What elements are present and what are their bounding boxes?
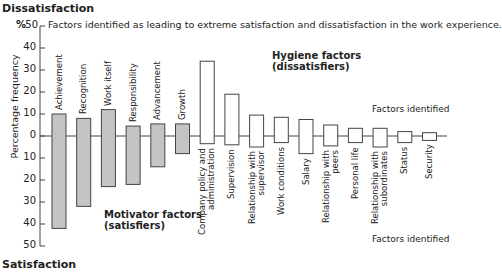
y-tick-label: 20 [16, 173, 36, 184]
bar [126, 126, 140, 184]
bar [225, 94, 239, 145]
bar-label: Status [400, 147, 409, 174]
bar [348, 128, 362, 142]
y-tick-label: 20 [16, 85, 36, 96]
y-tick-label: 50 [16, 239, 36, 250]
y-tick-label: 10 [16, 151, 36, 162]
y-tick-label: 40 [16, 217, 36, 228]
factors-identified-top: Factors identified [372, 104, 450, 114]
bar [250, 115, 264, 147]
factors-identified-bottom: Factors identified [372, 234, 450, 244]
bar [398, 132, 412, 143]
bar-label: Security [425, 144, 434, 179]
bar-label: Growth [178, 89, 187, 120]
bar-label: Work itself [104, 61, 113, 106]
bar [324, 125, 338, 146]
bar-label: Work conditions [277, 147, 286, 215]
bar [151, 124, 165, 167]
y-tick-label: 10 [16, 107, 36, 118]
y-tick-label: 30 [16, 195, 36, 206]
bar [176, 124, 190, 154]
bar [52, 114, 66, 228]
bar-label: Relationship withsubordinates [371, 151, 389, 224]
bar [274, 117, 288, 142]
motivator-title: Motivator factors [104, 209, 202, 220]
motivator-group-label: Motivator factors (satisfiers) [104, 209, 202, 231]
y-tick-label: 40 [16, 41, 36, 52]
y-tick-label: 30 [16, 63, 36, 74]
y-tick-label: 0 [16, 129, 36, 140]
y-tick-label: 50 [18, 19, 38, 30]
hygiene-subtitle: (dissatisfiers) [272, 61, 361, 72]
bar-label: Salary [302, 158, 311, 185]
bar-label: Company policy andadministration [198, 148, 216, 235]
bar-label: Personal life [351, 147, 360, 199]
bar-label: Responsibility [129, 63, 138, 122]
bar-label: Supervision [227, 149, 236, 199]
satisfaction-label: Satisfaction [2, 258, 76, 271]
dissatisfaction-label: Dissatisfaction [2, 2, 94, 15]
bar-label: Achievement [55, 54, 64, 110]
chart-caption: Factors identified as leading to extreme… [48, 19, 502, 30]
bar [299, 120, 313, 154]
hygiene-title: Hygiene factors [272, 50, 361, 61]
bar-label: Relationship withpeers [322, 150, 340, 223]
bar-label: Recognition [79, 64, 88, 114]
motivator-subtitle: (satisfiers) [104, 220, 202, 231]
bar-label: Relationship withsupervisor [248, 151, 266, 224]
hygiene-group-label: Hygiene factors (dissatisfiers) [272, 50, 361, 72]
bar [77, 118, 91, 206]
bar [373, 128, 387, 147]
bar [200, 61, 214, 144]
bar-label: Advancement [153, 61, 162, 120]
bar [101, 110, 115, 187]
bar [423, 133, 437, 141]
